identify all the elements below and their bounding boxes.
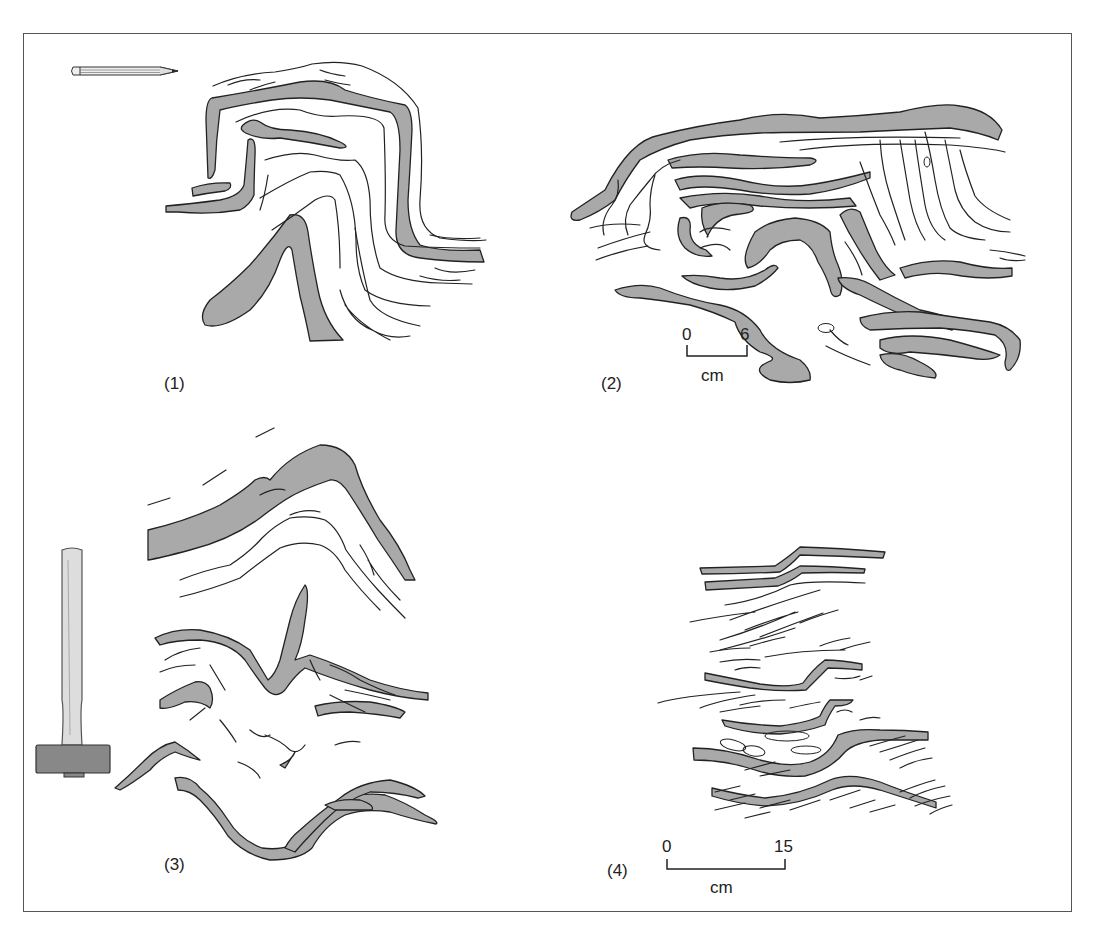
scale-4-start: 0	[662, 837, 671, 856]
panel-1-drawing	[166, 62, 486, 341]
panel-4-drawing	[658, 547, 952, 818]
pencil-icon	[72, 67, 179, 75]
panel-1-label: (1)	[164, 374, 185, 393]
scale-bar-panel-2	[687, 345, 747, 356]
scale-2-start: 0	[682, 325, 691, 344]
panel-3-label: (3)	[164, 855, 185, 874]
panel-2-drawing	[571, 105, 1025, 383]
scale-2-end: 6	[740, 325, 749, 344]
scale-4-unit: cm	[710, 878, 733, 897]
panel-2-label: (2)	[601, 374, 622, 393]
panel-4-label: (4)	[607, 861, 628, 880]
hammer-icon	[36, 548, 110, 777]
panel-3-drawing	[115, 428, 437, 860]
scale-2-unit: cm	[701, 366, 724, 385]
geology-drawings: (1) (2) 0 6 cm	[0, 0, 1095, 937]
scale-bar-panel-4	[667, 859, 785, 869]
scale-4-end: 15	[774, 837, 793, 856]
